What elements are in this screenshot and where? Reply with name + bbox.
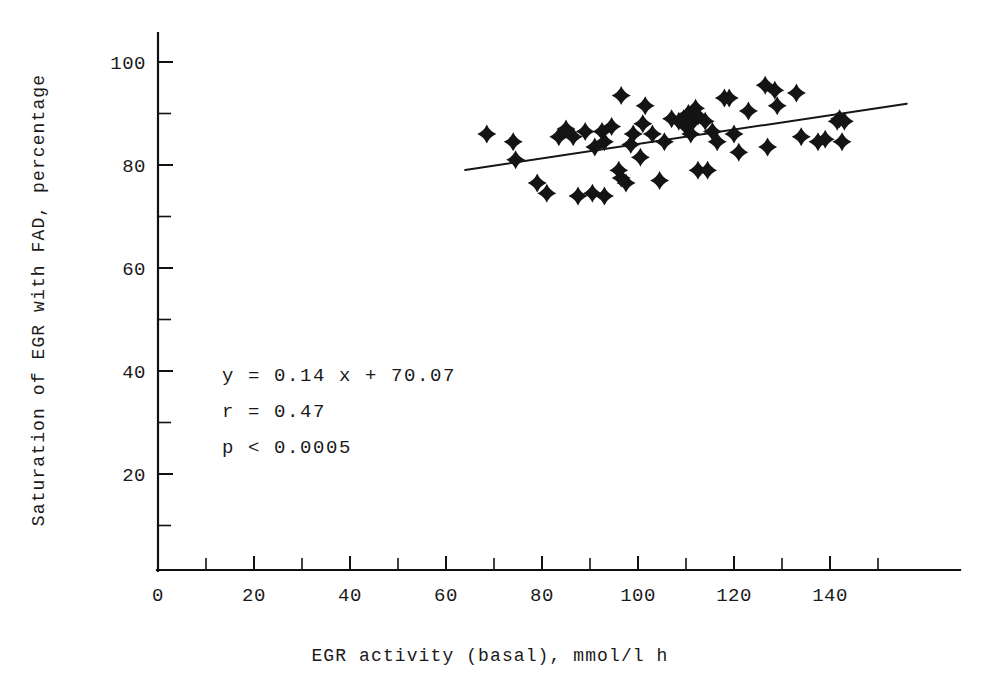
y-tick-label: 80: [122, 156, 146, 178]
y-tick-label: 40: [122, 362, 146, 384]
x-axis-tick-labels: 020406080100120140: [152, 585, 848, 607]
data-point-marker: [739, 101, 758, 120]
annotation-correlation: r = 0.47: [222, 401, 326, 423]
data-point-marker: [583, 184, 602, 203]
x-tick-label: 100: [620, 585, 656, 607]
data-point-marker: [792, 127, 811, 146]
x-tick-label: 140: [812, 585, 848, 607]
x-tick-label: 60: [434, 585, 458, 607]
data-point-marker: [725, 125, 744, 144]
x-tick-label: 120: [716, 585, 752, 607]
data-point-marker: [506, 150, 525, 169]
data-point-marker: [477, 125, 496, 144]
data-point-marker: [595, 186, 614, 205]
x-tick-label: 0: [152, 585, 164, 607]
y-tick-label: 20: [122, 465, 146, 487]
data-point-marker: [720, 89, 739, 108]
data-point-marker: [650, 171, 669, 190]
x-tick-label: 20: [242, 585, 266, 607]
data-point-marker: [631, 148, 650, 167]
y-axis-title: Saturation of EGR with FAD, percentage: [29, 74, 49, 526]
y-axis-ticks: [158, 62, 173, 526]
x-axis-ticks: [206, 556, 878, 570]
plot-canvas: 020406080100120140 20406080100 EGR activ…: [0, 0, 981, 693]
data-point-marker: [833, 132, 852, 151]
data-point-marker: [787, 83, 806, 102]
annotation-equation: y = 0.14 x + 70.07: [222, 365, 456, 387]
y-axis-tick-labels: 20406080100: [110, 53, 146, 487]
data-point-marker: [729, 143, 748, 162]
data-point-marker: [758, 137, 777, 156]
x-tick-label: 40: [338, 585, 362, 607]
data-point-marker: [612, 86, 631, 105]
y-tick-label: 60: [122, 259, 146, 281]
data-point-marker: [504, 132, 523, 151]
data-point-marker: [569, 186, 588, 205]
data-point-marker: [698, 161, 717, 180]
x-axis-title: EGR activity (basal), mmol/l h: [311, 646, 668, 666]
y-tick-label: 100: [110, 53, 146, 75]
data-point-marker: [636, 96, 655, 115]
annotation-pvalue: p < 0.0005: [222, 437, 352, 459]
data-point-marker: [768, 96, 787, 115]
x-tick-label: 80: [530, 585, 554, 607]
scatter-plot-figure: 020406080100120140 20406080100 EGR activ…: [0, 0, 981, 693]
